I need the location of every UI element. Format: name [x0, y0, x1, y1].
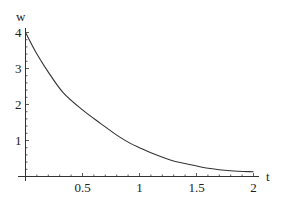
- series-line: [26, 33, 254, 172]
- x-axis: 0.511.52: [18, 173, 259, 195]
- y-tick-label: 1: [15, 133, 22, 148]
- x-tick-label: 0.5: [74, 180, 90, 195]
- line-chart: 0.511.52 1234 t w: [0, 0, 283, 201]
- y-tick-label: 3: [15, 61, 22, 76]
- y-axis-label: w: [16, 9, 26, 24]
- x-tick-label: 1.5: [188, 180, 204, 195]
- plot-series: [26, 33, 254, 172]
- x-axis-label: t: [266, 169, 270, 184]
- y-axis: 1234: [15, 25, 29, 181]
- y-tick-label: 2: [15, 97, 22, 112]
- x-tick-label: 1: [136, 180, 143, 195]
- y-tick-label: 4: [15, 25, 22, 40]
- x-tick-label: 2: [250, 180, 257, 195]
